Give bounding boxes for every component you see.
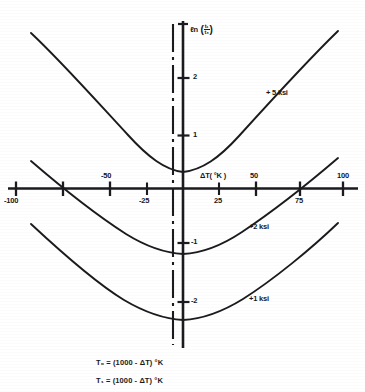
caption-line-1: T₀ = (1000 - ΔT) °K (96, 358, 163, 367)
y-axis-title-denominator: t₃ (204, 30, 210, 36)
caption-line-2: T₁ = (1000 - ΔT) °K (96, 376, 163, 385)
curve-label-plus-2-ksi: +2 ksi (249, 223, 269, 231)
y-axis (178, 21, 190, 348)
x-tick-label-75: 75 (295, 197, 303, 205)
curve-label-plus-5-ksi: + 5 ksi (266, 89, 288, 97)
y-tick-label-minus-1: -1 (191, 238, 197, 246)
curve-label-plus-1-ksi: +1 ksi (249, 295, 269, 303)
y-tick-label-1: 1 (193, 131, 197, 139)
x-tick-label-minus-50: -50 (101, 172, 111, 180)
curve-plus-1-ksi (31, 223, 338, 320)
x-tick-label-minus-25: -25 (139, 197, 149, 205)
graph-figure: .axis-line{stroke:#1b1a1e;fill:none;} .c… (0, 0, 365, 392)
x-tick-label-50: 50 (250, 172, 258, 180)
x-tick-label-25: 25 (214, 197, 222, 205)
y-axis-title: ℓn (t₁t₃) (190, 24, 213, 37)
y-axis-title-fraction: t₁t₃ (204, 24, 210, 37)
curve-plus-5-ksi (31, 31, 338, 172)
y-tick-label-2: 2 (193, 73, 197, 81)
y-axis-title-close-paren: ) (210, 24, 213, 35)
x-tick-label-100: 100 (337, 172, 349, 180)
x-axis-title: ΔT( °K ) (200, 172, 226, 180)
x-tick-label-minus-100: -100 (4, 197, 18, 205)
y-tick-label-minus-2: -2 (191, 297, 197, 305)
y-axis-title-prefix: ℓn (190, 25, 198, 34)
